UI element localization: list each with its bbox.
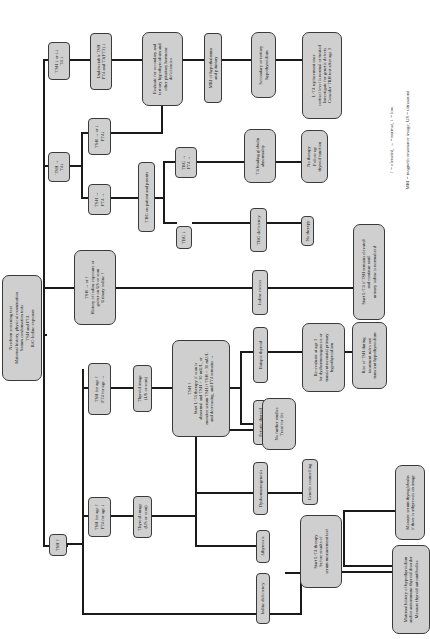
node-genetic-counselling: Genetic counselling xyxy=(302,459,318,505)
legend-arrows: ↑ = elevated, → = normal, ↓ = low xyxy=(389,70,395,210)
spine xyxy=(43,59,45,547)
node-tsh-n-ft4-low: TSH → or ↓FT4↓ xyxy=(88,118,111,155)
node-eutopic-thyroid: Eutopic thyroid xyxy=(253,327,268,383)
node-no-therapy: No therapy xyxy=(301,216,314,246)
connector xyxy=(195,492,256,494)
node-tbg-low: TBG ↓ xyxy=(176,226,192,249)
connector xyxy=(81,132,88,134)
node-reevaluate-age3: Re-evaluate at age 3for dyshormonogenesi… xyxy=(302,323,345,392)
node-secondary-tertiary: Secondary or tertiaryhypothyroidism xyxy=(251,32,276,98)
node-undetectable-tsh: Undetectable TSHFT4 and T3(FT3) ↓ xyxy=(90,33,112,90)
connector xyxy=(81,197,88,199)
connector xyxy=(343,565,393,567)
connector xyxy=(195,516,197,547)
connector xyxy=(268,492,302,494)
connector xyxy=(43,334,47,336)
node-tsh-age-ft4-low: TSH for age ↑FT4 for age ↓ xyxy=(88,497,111,537)
connector xyxy=(195,545,256,547)
connector xyxy=(240,351,254,353)
node-tsh-n-ft4-n: TSH →FT4 → xyxy=(88,184,111,215)
connector xyxy=(82,369,84,615)
node-start-lt4-iodine: Start L-T4 if TSH remains elevatedand co… xyxy=(353,224,385,320)
node-rise-tsh: Rise of TSH duringtreatment rules outtra… xyxy=(352,322,387,389)
thyroid-flowchart: Newborn screening testMaternal history, … xyxy=(0,0,430,639)
node-thyroid-image-lower: Thyroid image(US or scan) xyxy=(133,496,152,538)
node-mri: MRI of hypothalamusand pituitary xyxy=(204,33,222,103)
node-thyroid-image-upper: Thyroid image(US or scan) xyxy=(133,365,152,412)
connector xyxy=(111,132,162,134)
branch-iodine: TSH → or ↑History of iodine exposure org… xyxy=(74,250,116,325)
root-newborn-screening: Newborn screening testMaternal history, … xyxy=(2,275,42,381)
node-start-lt4-before-results: Start L-T4 therapybefore results ofserum… xyxy=(300,515,342,588)
node-no-therapy-follow-up: No therapyFollow upthyroid function xyxy=(301,130,328,183)
node-maternal-history: Maternal history of hypothyroidismand/or… xyxy=(392,545,430,634)
connector xyxy=(116,287,354,289)
node-tbg-deficiency: TBG deficiency xyxy=(250,208,267,252)
connector xyxy=(81,133,83,199)
legend-abbreviations: MRI = magnetic resonance image, US = ult… xyxy=(405,70,411,210)
node-lt4-replacement: L-T4 replacement oncecortisol level is n… xyxy=(302,32,342,119)
connector xyxy=(192,222,302,224)
node-iodine-excess: Iodine excess xyxy=(252,270,268,315)
connector xyxy=(163,162,165,224)
branch-tsh-low: TSH ↓ or ↓↓T4 ↓ xyxy=(48,42,70,80)
branch-tsh-high: TSH ↑ xyxy=(49,534,67,556)
node-evaluate-secondary: Evaluate for secondary andtertiary hypot… xyxy=(142,32,183,106)
connector xyxy=(66,543,83,545)
node-no-further-studies: No further studiesTreat for life xyxy=(262,398,296,450)
connector xyxy=(43,287,74,289)
node-measure-thyroglobulin: Measure serum thyroglobulinif there is a… xyxy=(395,465,425,540)
connector xyxy=(152,387,172,389)
branch-tsh-normal-t4-low: TSH →T4↓ xyxy=(48,152,70,182)
connector xyxy=(163,222,177,224)
connector xyxy=(285,572,301,574)
connector xyxy=(342,571,392,573)
node-tbg-test: TBG on patient and parents xyxy=(138,162,155,232)
connector xyxy=(240,352,242,425)
connector xyxy=(111,197,139,199)
connector xyxy=(195,430,197,517)
connector xyxy=(240,423,254,425)
connector xyxy=(111,515,196,517)
node-tsh-age-ft4-normal: TSH for age ↑FT4 for age → xyxy=(88,363,111,415)
connector xyxy=(343,511,345,567)
connector xyxy=(343,510,395,512)
node-t4-binding-abnormality: T4 binding globulinabnormality xyxy=(244,129,276,183)
node-iodine-deficiency: Iodine deficiency xyxy=(256,573,270,624)
legend: ↑ = elevated, → = normal, ↓ = low MRI = … xyxy=(389,70,411,210)
node-tbg-n-ft4-n: TBG →FT4 → xyxy=(175,147,197,178)
node-athyreosis: Athyreosis xyxy=(256,530,270,563)
node-dyshormonogenesis: Dyshormonogenesis xyxy=(253,462,268,515)
node-tsh-start-lt4: TSH ↑Start L-T4 therapy if scan isabnorm… xyxy=(172,340,230,437)
connector xyxy=(268,351,304,353)
